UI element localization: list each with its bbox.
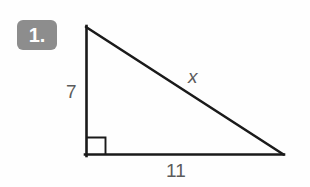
vertical-leg-label: 7 — [66, 82, 77, 101]
triangle-hypotenuse — [86, 27, 284, 155]
hypotenuse-label: x — [188, 67, 198, 86]
right-angle-marker-icon — [87, 138, 106, 156]
horizontal-leg-label: 11 — [166, 161, 186, 180]
right-triangle-diagram — [0, 0, 310, 187]
figure-canvas: 1. 7 x 11 — [0, 0, 310, 187]
